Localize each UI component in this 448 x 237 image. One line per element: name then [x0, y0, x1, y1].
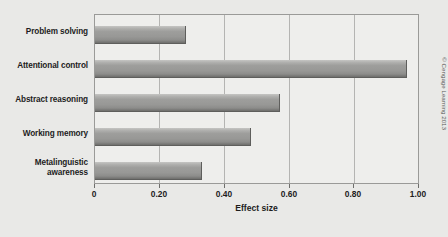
- category-label: Metalinguistic awareness: [0, 158, 88, 177]
- plot-area: [94, 14, 419, 184]
- tick-mark-0.80: [353, 184, 354, 188]
- copyright-credit: © Cengage Learning 2013: [441, 57, 448, 130]
- bars-layer: [95, 15, 418, 183]
- category-label-line: Working memory: [0, 129, 88, 139]
- tick-label-1.00: 1.00: [398, 189, 438, 199]
- category-label: Abstract reasoning: [0, 95, 88, 105]
- category-label-line: Attentional control: [0, 61, 88, 71]
- bar-attentional-control: [95, 60, 407, 78]
- tick-label-0: 0: [74, 189, 114, 199]
- tick-label-0.80: 0.80: [333, 189, 373, 199]
- tick-label-0.40: 0.40: [204, 189, 244, 199]
- category-label: Problem solving: [0, 27, 88, 37]
- tick-mark-0.20: [159, 184, 160, 188]
- tick-label-0.20: 0.20: [139, 189, 179, 199]
- category-label: Working memory: [0, 129, 88, 139]
- tick-mark-0.40: [224, 184, 225, 188]
- category-label: Attentional control: [0, 61, 88, 71]
- category-axis-labels: Problem solving Attentional control Abst…: [0, 14, 88, 184]
- tick-mark-0.60: [289, 184, 290, 188]
- category-label-line: Metalinguistic: [0, 158, 88, 168]
- category-label-line: Abstract reasoning: [0, 95, 88, 105]
- tick-label-0.60: 0.60: [269, 189, 309, 199]
- bar-problem-solving: [95, 26, 186, 44]
- tick-mark-1.00: [418, 184, 419, 188]
- bar-abstract-reasoning: [95, 94, 280, 112]
- x-axis-title: Effect size: [94, 203, 419, 213]
- bar-working-memory: [95, 128, 251, 146]
- tick-mark-0: [94, 184, 95, 188]
- bar-metalinguistic-awareness: [95, 162, 202, 180]
- category-label-line: awareness: [0, 168, 88, 178]
- category-label-line: Problem solving: [0, 27, 88, 37]
